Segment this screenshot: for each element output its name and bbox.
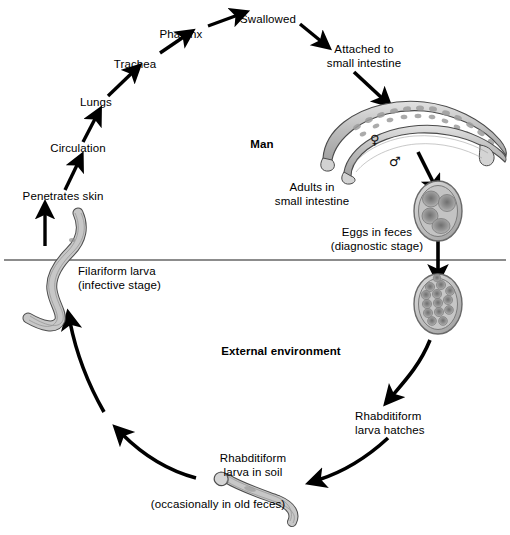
arrow-hatch-to-soil-larva <box>318 438 388 480</box>
label-filariform-line1: Filariform larva <box>78 265 156 279</box>
label-soil-larva-line1: Rhabditiform <box>220 452 286 466</box>
label-lungs: Lungs <box>80 96 112 110</box>
host-section-title: Man <box>250 138 273 152</box>
arrow-swallowed-to-attached <box>300 24 322 42</box>
label-hatch-line2: larva hatches <box>355 424 425 438</box>
label-eggs-line1: Eggs in feces <box>342 226 412 240</box>
label-attached-line2: small intestine <box>327 57 401 71</box>
label-swallowed: Swallowed <box>240 13 296 27</box>
arrow-soil-larva-to-filariform <box>122 434 196 478</box>
label-adults-line1: Adults in <box>289 181 334 195</box>
arrow-filariform-ascent <box>70 322 104 412</box>
arrow-egg-to-hatching <box>392 340 430 396</box>
egg-in-feces-four-cell <box>414 181 462 241</box>
label-pharynx: Pharynx <box>160 28 203 42</box>
label-soil-larva-note: (occasionally in old feces) <box>151 498 285 512</box>
label-soil-larva-line2: larva in soil <box>224 466 283 480</box>
arrow-penetrates-to-circulation <box>65 163 78 190</box>
female-symbol-icon: ♀ <box>370 133 380 146</box>
arrow-lungs-to-trachea <box>108 72 133 96</box>
label-trachea: Trachea <box>114 58 156 72</box>
label-eggs-line2: (diagnostic stage) <box>331 240 424 254</box>
arrow-circulation-to-lungs <box>83 117 96 142</box>
label-circulation: Circulation <box>50 142 105 156</box>
arrow-attached-to-adults <box>354 72 383 99</box>
life-cycle-diagram: Penetrates skin Circulation Lungs Trache… <box>0 0 510 535</box>
label-filariform-line2: (infective stage) <box>78 279 161 293</box>
arrow-adults-to-eggs <box>418 152 434 184</box>
label-penetrates-skin: Penetrates skin <box>23 190 104 204</box>
male-symbol-icon: ♂ <box>389 155 401 168</box>
arrow-pharynx-to-swallowed <box>208 15 238 26</box>
environment-section-title: External environment <box>221 345 341 359</box>
filariform-larva <box>28 213 84 326</box>
label-adults-line2: small intestine <box>275 195 349 209</box>
egg-morula-many-cell <box>414 274 462 334</box>
label-attached-line1: Attached to <box>334 43 393 57</box>
label-hatch-line1: Rhabditiform <box>355 410 421 424</box>
